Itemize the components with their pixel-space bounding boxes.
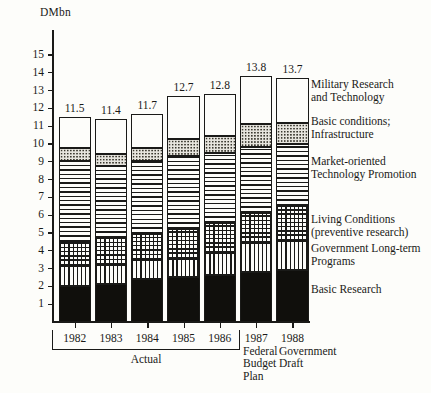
legend-entry-2: Basic conditions;Infrastructure: [311, 115, 391, 140]
legend: Military Researchand TechnologyBasic con…: [0, 0, 431, 393]
legend-entry-5: Government Long-termPrograms: [311, 242, 421, 267]
legend-entry-4: Living Conditions(preventive research): [311, 213, 408, 238]
legend-entry-6: Basic Research: [311, 283, 382, 296]
legend-entry-3: Market-orientedTechnology Promotion: [311, 155, 417, 180]
legend-entry-1: Military Researchand Technology: [311, 78, 394, 103]
chart-root: DMbn 123456789101112131415 11.511.411.71…: [0, 0, 431, 393]
